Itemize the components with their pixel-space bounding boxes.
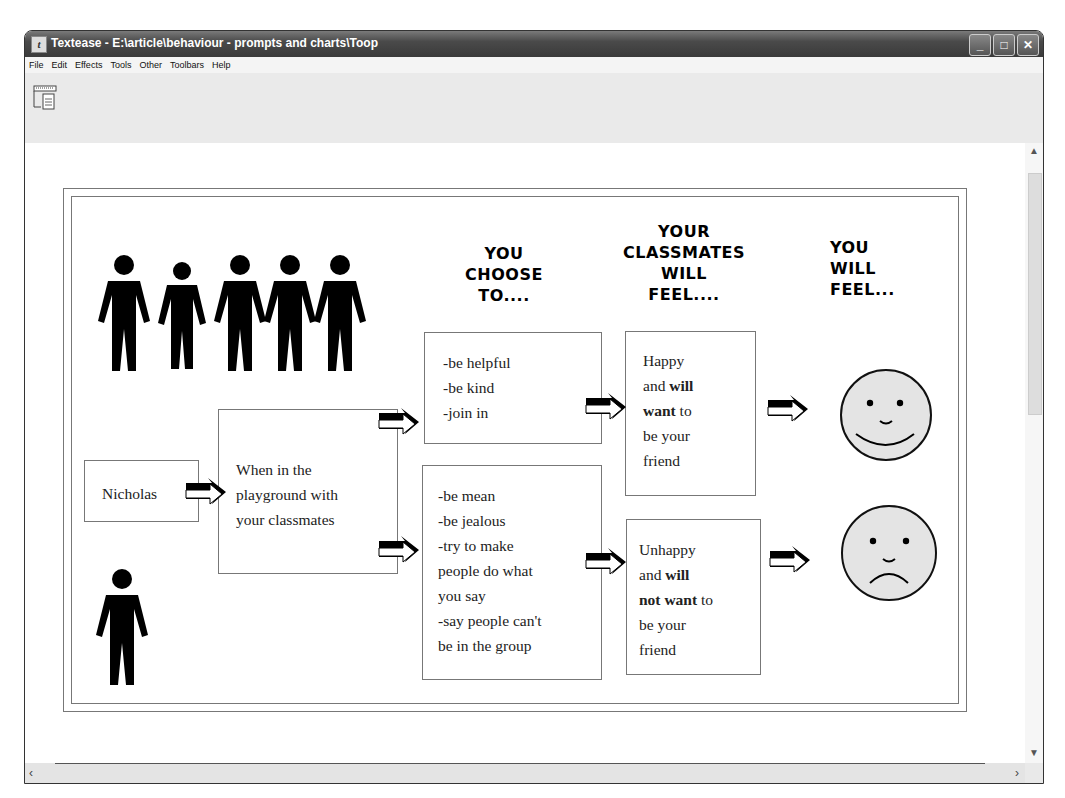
menu-tools[interactable]: Tools	[110, 57, 131, 73]
scroll-thumb[interactable]	[1028, 173, 1042, 415]
arrow-right-icon	[584, 547, 628, 577]
situation-box[interactable]: When in the playground with your classma…	[218, 409, 398, 574]
sad-face-icon	[840, 503, 938, 603]
scroll-left-icon[interactable]: ‹	[29, 766, 33, 780]
minimize-button[interactable]: _	[969, 34, 991, 56]
vertical-scrollbar[interactable]: ▲ ▼	[1025, 143, 1043, 763]
horizontal-scrollbar[interactable]: ‹ ›	[25, 763, 1025, 783]
scroll-track-line	[55, 763, 985, 764]
window-title: Textease - E:\article\behaviour - prompt…	[51, 36, 378, 50]
chart-frame: YOU CHOOSE TO.... YOUR CLASSMATES WILL F…	[63, 188, 967, 712]
menu-file[interactable]: File	[29, 57, 44, 73]
page-view-icon[interactable]	[33, 85, 59, 111]
menu-edit[interactable]: Edit	[52, 57, 68, 73]
scroll-down-icon[interactable]: ▼	[1027, 747, 1041, 761]
toolbar	[25, 73, 1043, 143]
app-window: t Textease - E:\article\behaviour - prom…	[24, 30, 1044, 784]
document-canvas[interactable]: YOU CHOOSE TO.... YOUR CLASSMATES WILL F…	[25, 143, 1025, 763]
scroll-right-icon[interactable]: ›	[1015, 766, 1019, 780]
heading-you-choose: YOU CHOOSE TO....	[444, 243, 564, 306]
arrow-right-icon	[184, 477, 228, 507]
group-figures-icon	[94, 249, 374, 379]
menu-bar: File Edit Effects Tools Other Toolbars H…	[25, 57, 1043, 73]
close-button[interactable]: ✕	[1017, 34, 1039, 56]
bad-choices-box[interactable]: -be mean -be jealous -try to make people…	[422, 465, 602, 680]
menu-help[interactable]: Help	[212, 57, 231, 73]
chart-frame-inner: YOU CHOOSE TO.... YOUR CLASSMATES WILL F…	[71, 196, 959, 704]
arrow-right-icon	[377, 535, 421, 565]
happy-face-icon	[838, 367, 934, 463]
good-choices-box[interactable]: -be helpful -be kind -join in	[424, 332, 602, 444]
arrow-right-icon	[766, 394, 810, 424]
menu-effects[interactable]: Effects	[75, 57, 102, 73]
title-bar[interactable]: t Textease - E:\article\behaviour - prom…	[25, 31, 1043, 57]
single-figure-icon	[92, 567, 152, 692]
arrow-right-icon	[584, 392, 628, 422]
menu-other[interactable]: Other	[139, 57, 162, 73]
arrow-right-icon	[377, 407, 421, 437]
heading-you-feel: YOU WILL FEEL...	[830, 237, 920, 300]
bad-outcome-box[interactable]: Unhappy and will not want to be your fri…	[626, 519, 761, 675]
arrow-right-icon	[768, 545, 812, 575]
good-outcome-box[interactable]: Happy and will want to be your friend	[625, 331, 756, 496]
heading-classmates-feel: YOUR CLASSMATES WILL FEEL....	[604, 221, 764, 305]
menu-toolbars[interactable]: Toolbars	[170, 57, 204, 73]
textease-icon[interactable]: t	[31, 36, 47, 53]
scroll-up-icon[interactable]: ▲	[1027, 145, 1041, 159]
name-box[interactable]: Nicholas	[84, 460, 199, 522]
maximize-button[interactable]: □	[993, 34, 1015, 56]
